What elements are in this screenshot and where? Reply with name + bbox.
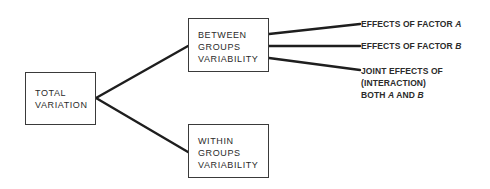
node-between-groups: BETWEEN GROUPS VARIABILITY bbox=[188, 18, 269, 72]
label-interaction-var-b: B bbox=[418, 90, 424, 100]
label-effects-factor-b: EFFECTS OF FACTOR B bbox=[361, 40, 461, 52]
node-within-line-1: WITHIN bbox=[198, 135, 258, 147]
label-interaction-line-3: BOTH A AND B bbox=[361, 89, 443, 101]
node-between-line-3: VARIABILITY bbox=[198, 53, 258, 65]
node-total-line-1: TOTAL bbox=[35, 87, 88, 99]
label-factor-a-text: EFFECTS OF FACTOR bbox=[361, 19, 455, 29]
label-interaction-line-2: (INTERACTION) bbox=[361, 77, 443, 89]
node-within-line-3: VARIABILITY bbox=[198, 159, 258, 171]
label-interaction-line-1: JOINT EFFECTS OF bbox=[361, 65, 443, 77]
label-factor-b-text: EFFECTS OF FACTOR bbox=[361, 41, 455, 51]
label-factor-a-var: A bbox=[455, 19, 461, 29]
node-between-line-2: GROUPS bbox=[198, 41, 258, 53]
node-between-line-1: BETWEEN bbox=[198, 29, 258, 41]
label-effects-factor-a: EFFECTS OF FACTOR A bbox=[361, 18, 461, 30]
edge-total-to-between bbox=[96, 46, 188, 98]
label-interaction-and: AND bbox=[394, 90, 417, 100]
node-total-line-2: VARIATION bbox=[35, 99, 88, 111]
label-interaction-effects: JOINT EFFECTS OF (INTERACTION) BOTH A AN… bbox=[361, 65, 443, 101]
label-factor-b-var: B bbox=[455, 41, 461, 51]
node-within-line-2: GROUPS bbox=[198, 147, 258, 159]
label-interaction-both: BOTH bbox=[361, 90, 388, 100]
node-within-groups: WITHIN GROUPS VARIABILITY bbox=[188, 124, 269, 178]
edge-between-to-factor-a bbox=[269, 24, 360, 34]
edge-between-to-interaction bbox=[269, 58, 360, 70]
edge-total-to-within bbox=[96, 98, 188, 152]
node-total-variation: TOTAL VARIATION bbox=[25, 72, 96, 125]
